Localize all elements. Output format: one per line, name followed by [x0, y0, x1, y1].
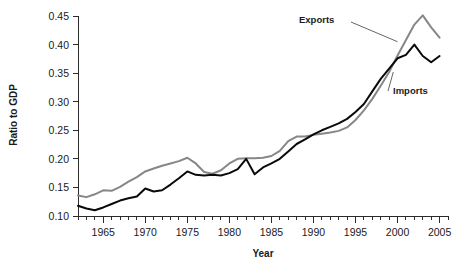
y-tick-label: 0.20 [49, 153, 70, 165]
chart-figure: 0.100.150.200.250.300.350.400.45 1965197… [0, 0, 465, 272]
exports-annotation-label: Exports [299, 14, 334, 25]
x-tick-label: 1975 [176, 226, 200, 238]
y-tick-label: 0.45 [49, 10, 70, 22]
y-tick-label: 0.10 [49, 210, 70, 222]
y-tick-label: 0.25 [49, 124, 70, 136]
x-tick-label: 1995 [344, 226, 368, 238]
cropped-footer-text [0, 265, 465, 272]
x-tick-label: 1985 [260, 226, 284, 238]
x-axis-tick-labels: 196519701975198019851990199520002005 [92, 226, 452, 238]
y-axis-title: Ratio to GDP [8, 84, 19, 146]
x-tick-label: 2005 [428, 226, 452, 238]
x-tick-label: 1990 [302, 226, 326, 238]
y-tick-label: 0.15 [49, 181, 70, 193]
x-tick-label: 1970 [134, 226, 158, 238]
x-axis-title: Year [252, 248, 273, 259]
x-tick-label: 1965 [92, 226, 116, 238]
x-tick-label: 1980 [218, 226, 242, 238]
y-tick-label: 0.35 [49, 67, 70, 79]
y-tick-label: 0.40 [49, 39, 70, 51]
imports-annotation-label: Imports [393, 85, 428, 96]
x-tick-label: 2000 [386, 226, 410, 238]
y-tick-label: 0.30 [49, 96, 70, 108]
